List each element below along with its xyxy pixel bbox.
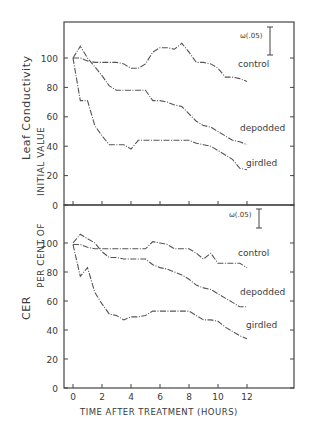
bottom-error-bar: ω(.05) — [229, 209, 262, 228]
top-ytick-label: 0 — [52, 201, 58, 211]
y-axis-title-upper-part: INITIAL VALUE — [36, 127, 46, 196]
bottom-ytick-label: 80 — [47, 268, 59, 278]
chart-figure: 020406080100 020406080100 024681012 cont… — [0, 0, 311, 436]
top-ytick-label: 40 — [47, 142, 59, 152]
top-series-depodded — [73, 46, 247, 145]
top-ytick-label: 100 — [41, 54, 58, 64]
top-error-bar-label: ω(.05) — [240, 32, 263, 40]
bottom-label-control: control — [238, 248, 269, 258]
top-panel-frame — [64, 22, 294, 205]
bottom-series-girdled — [73, 245, 247, 339]
xtick-label: 0 — [70, 392, 76, 402]
bottom-ytick-label: 40 — [47, 326, 59, 336]
bottom-series-depodded — [73, 234, 247, 306]
bottom-series-group — [73, 234, 247, 338]
bottom-y-axis-title: CER — [20, 296, 33, 320]
bottom-label-girdled: girdled — [246, 320, 277, 330]
y-axis-title-lower-part: PER CENT OF — [36, 223, 46, 288]
top-series-girdled — [73, 58, 247, 170]
xtick-label: 2 — [99, 392, 105, 402]
top-x-ticks — [73, 201, 247, 205]
bottom-ytick-label: 60 — [47, 297, 59, 307]
bottom-x-axis: 024681012 — [70, 384, 253, 402]
bottom-y-axis: 020406080100 — [41, 239, 294, 394]
top-label-girdled: girdled — [246, 158, 277, 168]
bottom-ytick-label: 20 — [47, 355, 59, 365]
xtick-label: 8 — [186, 392, 192, 402]
top-y-axis-title: Leaf Conductivity — [20, 56, 33, 160]
xtick-label: 6 — [157, 392, 163, 402]
top-error-bar: ω(.05) — [240, 27, 273, 55]
bottom-ytick-label: 0 — [52, 384, 58, 394]
bottom-label-depodded: depodded — [240, 287, 285, 297]
xtick-label: 12 — [241, 392, 252, 402]
top-label-depodded: depodded — [240, 123, 285, 133]
top-ytick-label: 80 — [47, 83, 59, 93]
x-axis-title: TIME AFTER TREATMENT (HOURS) — [79, 407, 238, 417]
bottom-series-control — [73, 242, 247, 268]
top-series-control — [73, 43, 247, 81]
top-label-control: control — [238, 59, 269, 69]
top-ytick-label: 20 — [47, 171, 59, 181]
xtick-label: 10 — [212, 392, 224, 402]
bottom-error-bar-label: ω(.05) — [229, 211, 252, 219]
top-series-group — [73, 43, 247, 169]
xtick-label: 4 — [128, 392, 134, 402]
top-ytick-label: 60 — [47, 112, 59, 122]
